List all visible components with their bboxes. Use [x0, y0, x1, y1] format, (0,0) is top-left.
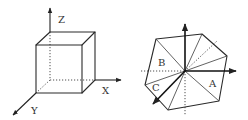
cube-diagram: Z X Y	[13, 8, 121, 116]
y-axis-label: Y	[30, 105, 38, 116]
region-c-label: C	[152, 82, 160, 93]
spoke-right	[185, 56, 227, 71]
dotted-diagonal-upright	[185, 41, 217, 71]
z-axis-label: Z	[58, 14, 65, 25]
spoke-bottom	[168, 71, 185, 110]
region-a-label: A	[208, 78, 217, 89]
region-b-label: B	[158, 57, 165, 68]
cube-top-face	[36, 32, 95, 45]
cube-right-face	[82, 32, 95, 93]
cube-front-face	[36, 45, 82, 93]
hexagon-projection-diagram: A B C	[141, 24, 236, 115]
figure-canvas: Z X Y A B C	[0, 0, 248, 120]
cube-hidden-edge-depth	[36, 80, 50, 93]
x-axis-label: X	[102, 85, 110, 96]
